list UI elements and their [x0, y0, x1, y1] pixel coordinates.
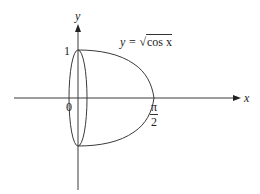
x-tick-label-pi-over-2: π 2: [150, 101, 158, 128]
y-axis-label: y: [75, 10, 80, 22]
y-tick-label-1: 1: [64, 45, 70, 57]
y-axis-arrow-icon: [75, 24, 81, 32]
curve-upper: [78, 50, 154, 98]
x-tick-numerator: π: [150, 101, 158, 115]
x-axis-arrow-icon: [233, 95, 241, 101]
diagram-canvas: [0, 0, 260, 194]
x-axis-label: x: [244, 92, 249, 104]
curve-lower: [78, 98, 154, 146]
x-tick-denominator: 2: [151, 115, 157, 128]
equation-radicand: cos x: [146, 34, 172, 49]
solid-of-revolution-diagram: y x 1 0 π 2 y = √cos x: [0, 0, 260, 194]
curve-equation-label: y = √cos x: [120, 36, 172, 48]
equation-lhs: y =: [120, 35, 139, 49]
origin-label: 0: [66, 101, 72, 113]
